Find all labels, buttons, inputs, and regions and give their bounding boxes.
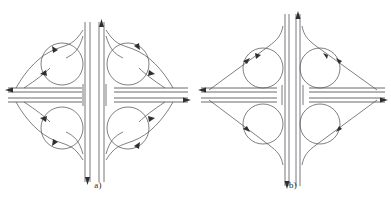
- loop-ramp-lower-right: [300, 104, 340, 144]
- vertical-mainline-b: [285, 14, 300, 186]
- arrow-ramp-ur: [148, 70, 155, 76]
- arrow-loop-ll: [52, 139, 58, 146]
- loop-ramp-lower-left: [41, 107, 83, 149]
- loop-ramp-lower-left: [243, 104, 283, 144]
- loop-ramps-a: [41, 43, 149, 149]
- loop-ramp-upper-right: [300, 48, 340, 88]
- diagram-panel-a: a): [0, 0, 196, 207]
- arrow-ramp-ll: [40, 116, 47, 122]
- cloverleaf-interchange-diagram: [0, 0, 196, 207]
- vertical-mainline-a: [85, 22, 104, 182]
- ramp-ul-outer: [16, 30, 83, 88]
- ramp-ur-outer: [106, 30, 173, 88]
- connector-ur-horizontal: [139, 68, 165, 88]
- arrowheads-b: [198, 11, 388, 189]
- panel-a-caption: a): [0, 180, 196, 190]
- arrow-top-up: [99, 19, 104, 27]
- arrow-loop-ul: [52, 46, 58, 53]
- panel-b-caption: b): [195, 180, 391, 190]
- interchange-figure: a): [0, 0, 391, 207]
- connector-ur-vertical: [106, 36, 123, 58]
- horizontal-mainline-b: [201, 88, 385, 102]
- overpass-deck-a: [83, 84, 106, 106]
- connector-ll-vertical: [66, 132, 83, 154]
- diagram-panel-b: b): [195, 0, 391, 207]
- ramp-diagonal-upper-right: [302, 26, 377, 90]
- directional-ramps-a: [16, 30, 173, 160]
- arrow-ramp-ul: [40, 70, 47, 76]
- arrow-ramp-lr: [148, 116, 155, 122]
- loop-ramps-b: [243, 48, 340, 144]
- ramp-diagonal-lower-right: [302, 100, 377, 165]
- directional-ramps-b: [209, 26, 377, 165]
- loop-ramp-upper-right: [107, 43, 149, 85]
- ramp-diagonal-lower-left: [209, 100, 283, 165]
- horizontal-mainline-a: [8, 88, 188, 102]
- diamond-interchange-diagram: [195, 0, 391, 207]
- loop-ramp-upper-left: [243, 48, 283, 88]
